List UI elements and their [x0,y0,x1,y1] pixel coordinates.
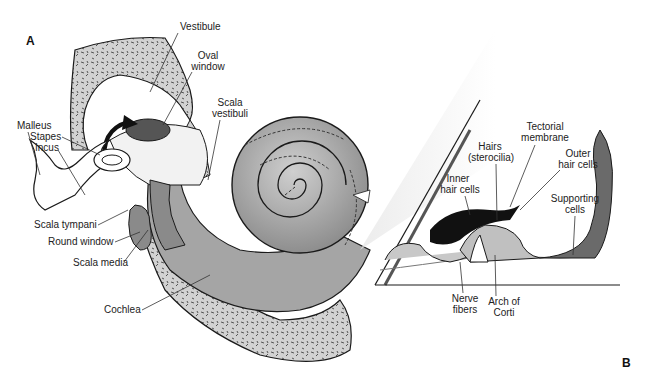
label-scala-tympani: Scala tympani [34,219,97,231]
label-nerve-2: fibers [445,304,485,316]
label-tectorial-2: membrane [518,132,572,144]
label-inner-2: hair cells [435,184,485,196]
label-vestibule: Vestibule [180,21,221,33]
cochlea-diagram [0,0,646,379]
label-scala-media: Scala media [73,257,128,269]
label-round-window: Round window [48,236,114,248]
label-supporting-2: cells [555,204,595,216]
panel-label-a: A [26,34,35,48]
label-hairs-2: (sterocilia) [466,152,516,164]
panel-label-b: B [622,356,631,370]
label-arch-2: Corti [482,307,526,319]
label-oval-window-2: window [184,61,232,73]
label-outer-2: hair cells [553,159,603,171]
label-incus: Incus [35,142,59,154]
label-cochlea: Cochlea [104,304,141,316]
label-scala-vestibuli-2: vestibuli [205,108,255,120]
